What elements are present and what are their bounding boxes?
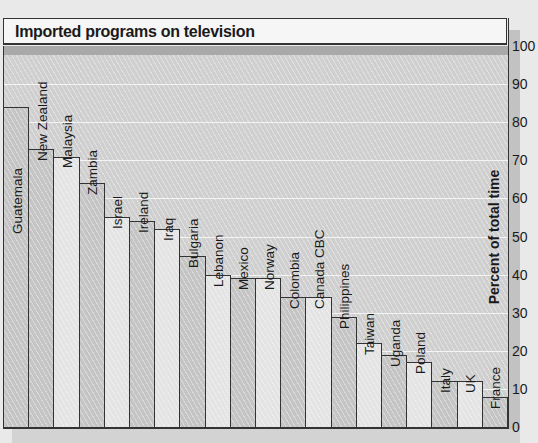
y-axis-label: Percent of total time: [486, 170, 502, 305]
bar: [356, 343, 382, 427]
chart-title-box: Imported programs on television: [3, 18, 507, 45]
bar: [3, 107, 29, 427]
x-axis-baseline: [3, 427, 509, 429]
y-tick-label: 100: [512, 38, 535, 54]
bar: [79, 183, 105, 427]
bar-label: Israel: [110, 196, 125, 229]
top-band: [4, 46, 508, 55]
bar-label: Malaysia: [60, 115, 75, 168]
plot-area: GuatemalaNew ZealandMalaysiaZambiaIsrael…: [3, 46, 508, 427]
gridline: [4, 122, 508, 123]
bar-label: New Zealand: [35, 81, 50, 161]
bar-label: France: [488, 366, 503, 408]
y-tick-label: 10: [512, 381, 528, 397]
y-tick-label: 90: [512, 76, 528, 92]
bar: [230, 278, 256, 427]
bar: [154, 229, 180, 427]
bar-label: Canada CBC: [312, 230, 327, 310]
y-tick-label: 60: [512, 190, 528, 206]
bar-label: Lebanon: [211, 234, 226, 287]
bar-label: Philippines: [337, 263, 352, 328]
y-tick-label: 70: [512, 152, 528, 168]
bar: [53, 157, 79, 428]
gridline: [4, 160, 508, 161]
bar-label: Iraq: [161, 218, 176, 241]
chart-title: Imported programs on television: [15, 23, 255, 41]
bar: [305, 297, 331, 427]
bar-label: UK: [463, 375, 478, 394]
bar-label: Guatemala: [10, 168, 25, 234]
bar: [129, 221, 155, 427]
bar-label: Uganda: [388, 319, 403, 366]
bar-label: Mexico: [236, 248, 251, 291]
bar-label: Italy: [438, 369, 453, 394]
y-tick-label: 30: [512, 305, 528, 321]
bar-label: Colombia: [287, 252, 302, 309]
bottom-shade: [12, 429, 520, 443]
bar-label: Norway: [262, 245, 277, 291]
bar: [179, 256, 205, 427]
y-tick-label: 80: [512, 114, 528, 130]
bar-label: Taiwan: [362, 313, 377, 355]
gridline: [4, 84, 508, 85]
y-tick-label: 0: [512, 419, 520, 435]
bar-label: Ireland: [136, 192, 151, 233]
y-tick-label: 20: [512, 343, 528, 359]
bar: [104, 217, 130, 427]
bar: [205, 275, 231, 427]
bar: [28, 149, 54, 427]
bar-label: Bulgaria: [186, 218, 201, 268]
y-axis-line: [508, 18, 509, 428]
bar: [255, 278, 281, 427]
y-tick-label: 40: [512, 267, 528, 283]
bar-label: Zambia: [85, 150, 100, 195]
y-tick-label: 50: [512, 229, 528, 245]
bar: [280, 297, 306, 427]
bar-label: Poland: [413, 332, 428, 374]
bar: [331, 317, 357, 427]
